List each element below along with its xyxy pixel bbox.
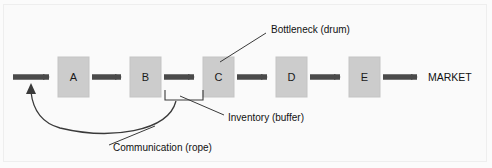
- diagram-svg: A B C D E MARKET Bottleneck (drum) Inven…: [0, 0, 492, 168]
- station-label-a: A: [70, 71, 78, 83]
- diagram-canvas: A B C D E MARKET Bottleneck (drum) Inven…: [0, 0, 492, 168]
- communication-label: Communication (rope): [113, 142, 212, 153]
- bottleneck-leader-line: [220, 33, 266, 62]
- station-label-e: E: [361, 71, 368, 83]
- market-label: MARKET: [428, 71, 472, 83]
- inventory-leader-line: [180, 96, 224, 115]
- station-label-c: C: [215, 71, 223, 83]
- buffer-bracket: [165, 90, 203, 100]
- station-label-b: B: [142, 71, 149, 83]
- rope-arrowhead-icon: [26, 83, 36, 94]
- bottleneck-label: Bottleneck (drum): [271, 24, 350, 35]
- station-label-d: D: [288, 71, 296, 83]
- rope-curve: [31, 92, 176, 133]
- inventory-label: Inventory (buffer): [228, 112, 304, 123]
